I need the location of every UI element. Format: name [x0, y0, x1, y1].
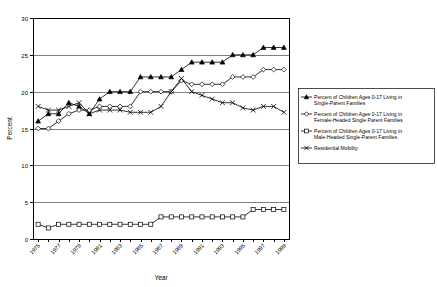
marker-open-square — [282, 207, 286, 211]
marker-x-cross — [200, 93, 205, 98]
marker-open-square — [138, 222, 142, 226]
marker-open-square — [251, 207, 255, 211]
marker-open-square — [98, 222, 102, 226]
series-1 — [36, 45, 287, 123]
x-tick-label: 1975 — [28, 242, 41, 255]
legend-label: Residential Mobility — [314, 145, 358, 151]
marker-open-square — [67, 222, 71, 226]
marker-x-cross — [189, 89, 194, 94]
x-tick-label: 1993 — [212, 242, 225, 255]
marker-open-diamond — [189, 82, 194, 87]
x-tick-label: 1995 — [233, 242, 246, 255]
marker-x-cross — [210, 97, 215, 102]
marker-x-cross — [36, 104, 41, 109]
legend-item-2[interactable]: Percent of Children Ages 0-17 Living inF… — [301, 111, 403, 123]
marker-open-square — [220, 215, 224, 219]
marker-open-square — [87, 222, 91, 226]
marker-filled-triangle — [66, 100, 71, 104]
y-tick-label: 5 — [25, 200, 29, 206]
x-tick-label: 1997 — [253, 242, 266, 255]
x-tick-label: 1999 — [274, 242, 287, 255]
marker-open-square — [108, 222, 112, 226]
legend-label: Female-Headed Single Parent Families — [314, 117, 403, 123]
line-chart: 0510152025301975197719791981198319851987… — [0, 0, 437, 287]
marker-open-square — [210, 215, 214, 219]
marker-x-cross — [159, 104, 164, 109]
legend-item-3[interactable]: Percent of Children Ages 0-17 Living inM… — [301, 128, 402, 140]
marker-open-square — [77, 222, 81, 226]
marker-open-square — [57, 222, 61, 226]
marker-x-cross — [281, 110, 286, 115]
y-tick-label: 0 — [25, 237, 29, 243]
marker-open-diamond — [138, 89, 143, 94]
series-line — [38, 47, 284, 121]
chart-container: 0510152025301975197719791981198319851987… — [0, 0, 437, 287]
legend-label: Single-Parent Families — [314, 100, 366, 106]
marker-open-diamond — [210, 82, 215, 87]
marker-open-square — [261, 207, 265, 211]
marker-filled-triangle — [97, 97, 102, 101]
marker-open-square — [190, 215, 194, 219]
series-line — [38, 78, 284, 113]
marker-open-diamond — [148, 89, 153, 94]
marker-open-square — [272, 207, 276, 211]
marker-open-square — [46, 226, 50, 230]
marker-open-diamond — [281, 67, 286, 72]
marker-open-diamond — [128, 104, 133, 109]
marker-open-square — [179, 215, 183, 219]
marker-open-square — [159, 215, 163, 219]
marker-open-square — [149, 222, 153, 226]
y-tick-label: 20 — [21, 90, 28, 96]
x-tick-label: 1985 — [131, 242, 144, 255]
marker-open-square — [36, 222, 40, 226]
legend-label: Percent of Children Ages 0-17 Living in — [314, 128, 402, 134]
legend-label: Percent of Children Ages 0-17 Living in — [314, 111, 402, 117]
legend: Percent of Children Ages 0-17 Living inS… — [299, 89, 435, 164]
marker-open-square — [169, 215, 173, 219]
y-axis-title: Percent — [6, 117, 13, 140]
x-tick-label: 1983 — [110, 242, 123, 255]
marker-open-square — [118, 222, 122, 226]
marker-open-diamond — [241, 75, 246, 80]
marker-filled-triangle — [179, 67, 184, 71]
marker-open-square — [305, 129, 309, 133]
y-tick-label: 10 — [21, 163, 28, 169]
x-tick-label: 1981 — [90, 242, 103, 255]
marker-open-diamond — [159, 89, 164, 94]
x-axis-title: Year — [154, 274, 168, 281]
x-tick-label: 1989 — [171, 242, 184, 255]
x-tick-label: 1987 — [151, 242, 164, 255]
x-tick-label: 1977 — [49, 242, 62, 255]
marker-open-diamond — [36, 126, 41, 131]
marker-open-square — [241, 215, 245, 219]
marker-filled-triangle — [36, 119, 41, 123]
marker-open-square — [128, 222, 132, 226]
y-tick-label: 15 — [21, 127, 28, 133]
marker-open-diamond — [271, 67, 276, 72]
y-tick-label: 30 — [21, 16, 28, 22]
marker-open-diamond — [200, 82, 205, 87]
marker-open-square — [200, 215, 204, 219]
y-tick-label: 25 — [21, 53, 28, 59]
series-3 — [36, 207, 286, 229]
legend-label: Percent of Children Ages 0-17 Living in — [314, 94, 402, 100]
marker-open-square — [231, 215, 235, 219]
legend-label: Male-Headed Single-Parent Families — [314, 134, 398, 140]
x-tick-label: 1979 — [69, 242, 82, 255]
x-tick-label: 1991 — [192, 242, 205, 255]
series-4 — [36, 76, 287, 116]
